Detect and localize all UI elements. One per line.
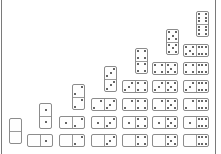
pip-icon [185,46,187,48]
domino-half-4 [135,135,148,146]
domino-half-0 [123,135,135,146]
domino-3-3[interactable] [104,66,117,92]
pip-icon [144,136,146,138]
domino-4-5[interactable] [152,62,178,75]
domino-1-6[interactable] [183,116,209,129]
pip-icon [205,29,207,31]
pip-icon [201,118,203,120]
pip-icon [205,26,207,28]
pip-icon [205,143,207,145]
pip-icon [174,100,176,102]
pip-icon [144,107,146,109]
pip-icon [170,86,172,88]
domino-3-5[interactable] [152,80,178,93]
domino-0-5[interactable] [152,134,178,147]
pip-icon [189,50,191,52]
domino-1-1[interactable] [39,103,52,129]
pip-icon [144,50,146,52]
pip-icon [167,143,169,145]
pip-icon [174,125,176,127]
pip-icon [144,100,146,102]
domino-half-4 [135,81,148,92]
pip-icon [113,81,115,83]
pip-icon [158,86,160,88]
pip-icon [205,64,207,66]
domino-3-4[interactable] [122,80,148,93]
domino-half-3 [184,81,196,92]
domino-half-2 [73,97,84,110]
pip-icon [137,100,139,102]
pip-icon [74,106,76,108]
domino-half-1 [60,117,72,128]
pip-icon [65,122,67,124]
pip-icon [185,107,187,109]
domino-2-4[interactable] [122,98,148,111]
domino-0-6[interactable] [183,134,209,147]
pip-icon [137,70,139,72]
pip-icon [158,122,160,124]
pip-icon [128,86,130,88]
pip-icon [205,89,207,91]
domino-half-1 [123,117,135,128]
domino-half-5 [165,63,178,74]
domino-half-1 [40,116,51,129]
domino-2-3[interactable] [91,98,117,111]
domino-5-5[interactable] [166,29,179,55]
domino-4-4[interactable] [135,48,148,74]
domino-2-5[interactable] [152,98,178,111]
pip-icon [201,71,203,73]
domino-0-0[interactable] [9,118,22,144]
pip-icon [192,100,194,102]
pip-icon [201,143,203,145]
pip-icon [74,143,76,145]
domino-half-3 [105,79,116,92]
domino-5-6[interactable] [183,44,209,57]
domino-0-3[interactable] [91,134,117,147]
pip-icon [205,125,207,127]
domino-half-5 [165,81,178,92]
pip-icon [198,64,200,66]
pip-icon [174,64,176,66]
domino-1-4[interactable] [122,116,148,129]
pip-icon [205,33,207,35]
domino-half-0 [10,131,21,144]
domino-half-4 [136,49,147,61]
pip-icon [205,53,207,55]
pip-icon [192,53,194,55]
pip-icon [198,33,200,35]
pip-icon [205,20,207,22]
pip-icon [205,46,207,48]
domino-0-4[interactable] [122,134,148,147]
domino-4-6[interactable] [183,62,209,75]
pip-icon [137,57,139,59]
domino-1-2[interactable] [59,116,85,129]
domino-2-6[interactable] [183,98,209,111]
domino-1-5[interactable] [152,116,178,129]
pip-icon [198,107,200,109]
pip-icon [174,82,176,84]
domino-6-6[interactable] [196,11,209,37]
domino-0-2[interactable] [59,134,85,147]
domino-half-3 [123,81,135,92]
pip-icon [201,136,203,138]
domino-1-3[interactable] [91,116,117,129]
pip-icon [106,143,108,145]
domino-3-6[interactable] [183,80,209,93]
pip-icon [205,82,207,84]
pip-icon [175,51,177,53]
domino-2-2[interactable] [72,84,85,110]
pip-icon [137,125,139,127]
pip-icon [154,107,156,109]
pip-icon [124,89,126,91]
domino-0-1[interactable] [27,134,53,147]
domino-half-4 [153,63,165,74]
pip-icon [198,89,200,91]
domino-half-6 [196,81,209,92]
pip-icon [192,71,194,73]
domino-half-6 [196,63,209,74]
domino-half-1 [40,104,51,116]
pip-icon [205,71,207,73]
pip-icon [201,46,203,48]
domino-half-0 [153,135,165,146]
pip-icon [81,136,83,138]
